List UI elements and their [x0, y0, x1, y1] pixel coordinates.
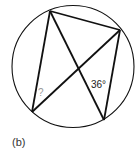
chord-ab	[50, 11, 120, 30]
circle	[12, 6, 134, 128]
chord-ac	[50, 11, 104, 120]
circle-diagram: ? 36° (b)	[0, 0, 138, 150]
figure-caption: (b)	[12, 136, 25, 148]
known-angle-label: 36°	[91, 79, 106, 90]
unknown-angle-label: ?	[38, 87, 44, 98]
